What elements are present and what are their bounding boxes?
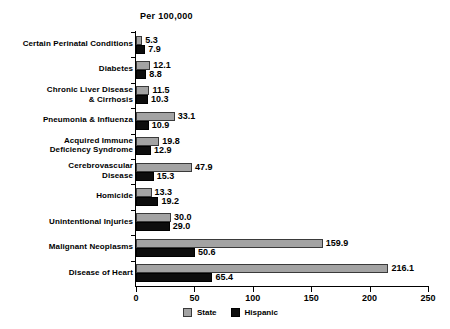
bar-value-label: 65.4 xyxy=(215,271,233,283)
category-tick xyxy=(131,134,136,135)
category-group: 47.915.3 xyxy=(136,159,428,184)
bar-hispanic xyxy=(136,70,146,79)
bar-hispanic xyxy=(136,146,151,155)
category-label: Malignant Neoplasms xyxy=(0,242,133,252)
bar-value-label: 15.3 xyxy=(157,170,175,182)
x-axis-tick xyxy=(136,287,137,292)
legend-item-state: State xyxy=(183,308,217,317)
category-group: 30.029.0 xyxy=(136,210,428,235)
bar-row: 5.3 xyxy=(136,36,428,45)
category-label-line: Chronic Liver Disease xyxy=(0,85,133,95)
category-tick xyxy=(131,57,136,58)
category-tick xyxy=(131,159,136,160)
category-label-line: Certain Perinatal Conditions xyxy=(0,39,133,49)
legend-label: State xyxy=(197,308,217,317)
category-group: 5.37.9 xyxy=(136,32,428,57)
bar-state xyxy=(136,213,171,222)
category-label: Pneumonia & Influenza xyxy=(0,115,133,125)
category-label-line: Homicide xyxy=(0,191,133,201)
category-tick xyxy=(131,261,136,262)
category-label: Homicide xyxy=(0,191,133,201)
bar-hispanic xyxy=(136,248,195,257)
category-label: Diabetes xyxy=(0,64,133,74)
bar-row: 19.8 xyxy=(136,137,428,146)
legend-swatch xyxy=(231,308,240,317)
bar-state xyxy=(136,61,150,70)
category-label-line: Disease xyxy=(0,171,133,181)
bar-state xyxy=(136,86,149,95)
bar-row: 65.4 xyxy=(136,273,428,282)
category-label-line: Acquired Immune xyxy=(0,136,133,146)
bar-value-label: 7.9 xyxy=(148,43,161,55)
bar-value-label: 12.9 xyxy=(154,144,172,156)
bar-hispanic xyxy=(136,222,170,231)
category-group: 13.319.2 xyxy=(136,184,428,209)
category-tick xyxy=(131,108,136,109)
category-label-line: Disease of Heart xyxy=(0,268,133,278)
bar-value-label: 19.2 xyxy=(161,195,179,207)
bar-row: 12.1 xyxy=(136,61,428,70)
category-group: 12.18.8 xyxy=(136,57,428,82)
legend-label: Hispanic xyxy=(245,308,278,317)
x-axis-tick xyxy=(428,287,429,292)
category-group: 33.110.9 xyxy=(136,108,428,133)
category-tick xyxy=(131,32,136,33)
x-axis-tick xyxy=(311,287,312,292)
bar-row: 216.1 xyxy=(136,264,428,273)
bar-row: 12.9 xyxy=(136,146,428,155)
bar-row: 47.9 xyxy=(136,163,428,172)
bar-row: 8.8 xyxy=(136,70,428,79)
bar-row: 7.9 xyxy=(136,45,428,54)
x-axis-tick-label: 50 xyxy=(189,293,199,303)
x-axis-tick-label: 100 xyxy=(245,293,260,303)
category-label: CerebrovascularDisease xyxy=(0,161,133,180)
category-label-line: Pneumonia & Influenza xyxy=(0,115,133,125)
chart-legend: StateHispanic xyxy=(183,308,278,317)
category-label-line: Unintentional Injuries xyxy=(0,217,133,227)
category-label: Acquired ImmuneDeficiency Syndrome xyxy=(0,136,133,155)
x-axis-tick-label: 150 xyxy=(304,293,319,303)
bar-chart: Per 100,000 5.37.912.18.811.510.333.110.… xyxy=(0,0,450,329)
category-label-line: Diabetes xyxy=(0,64,133,74)
x-axis-tick-label: 200 xyxy=(362,293,377,303)
category-tick xyxy=(131,184,136,185)
bar-hispanic xyxy=(136,95,148,104)
bar-state xyxy=(136,188,152,197)
bar-row: 29.0 xyxy=(136,222,428,231)
bar-row: 33.1 xyxy=(136,112,428,121)
category-tick xyxy=(131,83,136,84)
category-label: Certain Perinatal Conditions xyxy=(0,39,133,49)
x-axis-spine xyxy=(135,286,429,287)
category-label: Chronic Liver Disease& Cirrhosis xyxy=(0,85,133,104)
x-axis-tick xyxy=(370,287,371,292)
category-label-line: & Cirrhosis xyxy=(0,95,133,105)
bar-row: 159.9 xyxy=(136,239,428,248)
bar-row: 10.9 xyxy=(136,121,428,130)
bar-hispanic xyxy=(136,121,149,130)
category-group: 11.510.3 xyxy=(136,83,428,108)
bar-hispanic xyxy=(136,172,154,181)
bar-row: 13.3 xyxy=(136,188,428,197)
category-label-line: Deficiency Syndrome xyxy=(0,145,133,155)
chart-title: Per 100,000 xyxy=(140,11,193,21)
legend-item-hispanic: Hispanic xyxy=(231,308,278,317)
category-tick xyxy=(131,235,136,236)
bar-value-label: 8.8 xyxy=(149,68,162,80)
legend-swatch xyxy=(183,308,192,317)
category-group: 19.812.9 xyxy=(136,134,428,159)
bar-state xyxy=(136,264,388,273)
x-axis-tick-label: 0 xyxy=(133,293,138,303)
category-label-line: Malignant Neoplasms xyxy=(0,242,133,252)
bar-value-label: 29.0 xyxy=(173,220,191,232)
plot-area: 5.37.912.18.811.510.333.110.919.812.947.… xyxy=(136,32,428,286)
bar-hispanic xyxy=(136,273,212,282)
bar-row: 19.2 xyxy=(136,197,428,206)
category-group: 159.950.6 xyxy=(136,235,428,260)
bar-hispanic xyxy=(136,45,145,54)
bar-value-label: 10.3 xyxy=(151,93,169,105)
category-group: 216.165.4 xyxy=(136,261,428,286)
x-axis-tick xyxy=(253,287,254,292)
category-label: Unintentional Injuries xyxy=(0,217,133,227)
bar-row: 10.3 xyxy=(136,95,428,104)
bar-value-label: 10.9 xyxy=(152,119,170,131)
